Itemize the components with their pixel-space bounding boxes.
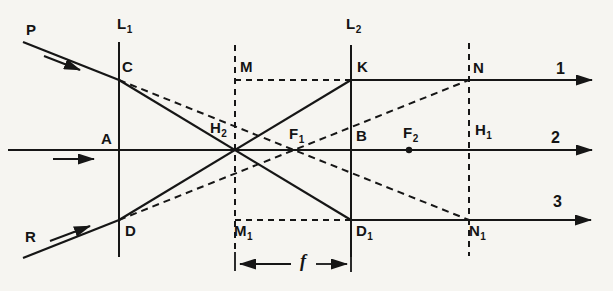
- label-M: M: [240, 59, 253, 74]
- label-ray-1: 1: [556, 61, 565, 77]
- label-focal-length-f: f: [300, 252, 306, 270]
- optical-ray-diagram: [0, 0, 613, 291]
- optics-figure: P L1 C A D R M H2 M1 F1 L2 K B D1 F2 N H…: [0, 0, 613, 291]
- label-K: K: [357, 59, 368, 74]
- label-R: R: [25, 229, 36, 244]
- focal-point-F2-dot: [406, 147, 412, 153]
- label-D: D: [125, 223, 136, 238]
- label-C: C: [122, 59, 133, 74]
- label-M1: M1: [234, 223, 253, 238]
- incident-ray-R: [23, 220, 119, 258]
- incident-ray-P: [23, 42, 119, 80]
- label-F2: F2: [403, 125, 418, 140]
- label-P: P: [26, 22, 37, 37]
- label-N1: N1: [469, 223, 486, 238]
- label-B: B: [356, 128, 367, 143]
- label-ray-2: 2: [551, 130, 560, 146]
- label-L1: L1: [117, 16, 132, 31]
- label-N: N: [473, 60, 484, 75]
- label-H2: H2: [210, 120, 227, 135]
- label-ray-3: 3: [553, 194, 562, 210]
- label-H1: H1: [475, 122, 492, 137]
- label-L2: L2: [346, 16, 361, 31]
- label-A: A: [101, 131, 112, 146]
- label-D1: D1: [356, 223, 373, 238]
- label-F1: F1: [289, 126, 304, 141]
